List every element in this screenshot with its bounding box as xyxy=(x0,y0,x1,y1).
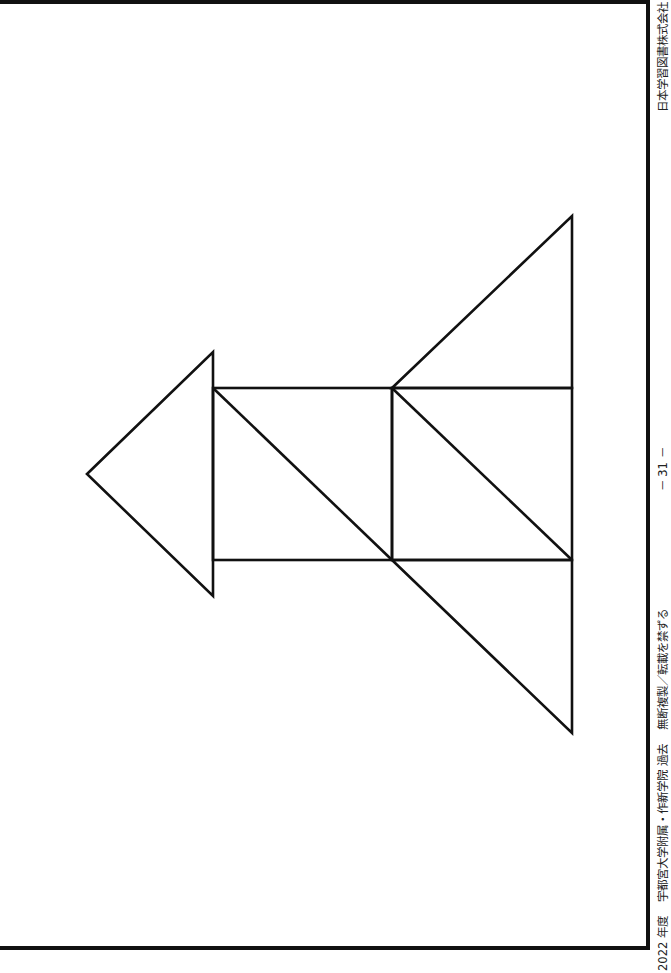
footer-publisher: 日本学習図書株式会社 xyxy=(654,2,670,112)
page-footer: 2022 年度 宇都宮大学附属・作新学院 過去 無断複製／転載を禁ずる － 31… xyxy=(652,0,671,973)
footer-year: 2022 年度 xyxy=(654,916,670,971)
tangram-figure xyxy=(0,0,671,973)
left-square-diagonal xyxy=(213,388,392,560)
footer-page-number: － 31 － xyxy=(654,447,670,491)
right-square-diagonal xyxy=(392,388,572,560)
bottom-right-triangle xyxy=(392,560,572,733)
top-right-triangle xyxy=(392,216,572,388)
left-triangle xyxy=(87,352,213,596)
footer-copyright-notice: 無断複製／転載を禁ずる xyxy=(654,609,670,730)
footer-school: 宇都宮大学附属・作新学院 過去 xyxy=(654,744,670,902)
